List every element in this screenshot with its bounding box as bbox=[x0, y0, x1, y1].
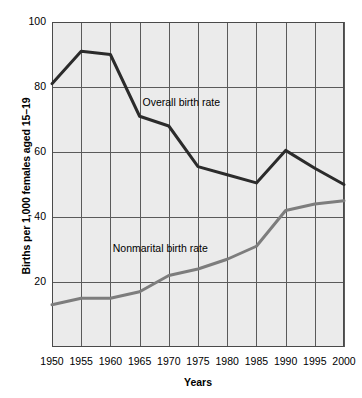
birth-rate-line-chart: Births per 1,000 females aged 15–19 2040… bbox=[0, 0, 362, 398]
x-tick-label: 2000 bbox=[327, 356, 361, 367]
x-axis-title: Years bbox=[52, 376, 344, 388]
series-label-1: Overall birth rate bbox=[143, 96, 221, 108]
y-tick-label: 40 bbox=[16, 211, 46, 222]
y-tick-label: 80 bbox=[16, 81, 46, 92]
y-tick-label: 20 bbox=[16, 276, 46, 287]
y-tick-label: 60 bbox=[16, 146, 46, 157]
series-label-2: Nonmarital birth rate bbox=[113, 242, 208, 254]
y-axis-title: Births per 1,000 females aged 15–19 bbox=[20, 66, 32, 306]
y-tick-label: 100 bbox=[16, 16, 46, 27]
plot-area bbox=[0, 0, 362, 398]
